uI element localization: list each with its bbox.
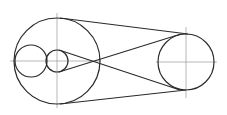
belt-line-outer-bottom xyxy=(60,90,186,104)
belt-line-cross-b xyxy=(59,34,181,72)
centerlines-group xyxy=(10,13,217,108)
belt-line-cross-a xyxy=(59,50,180,90)
diagram-canvas xyxy=(0,0,227,115)
belt-line-outer-top xyxy=(60,18,188,34)
belt-drive-diagram xyxy=(0,0,227,115)
